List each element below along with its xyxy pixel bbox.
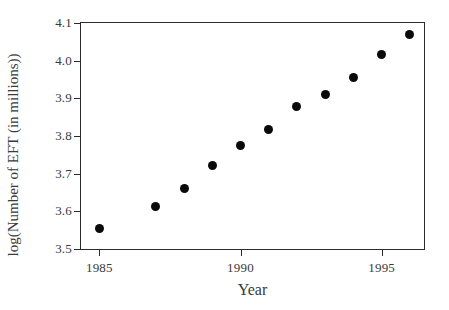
data-point (377, 50, 386, 59)
y-axis-title: log(Number of EFT (in millions)) (0, 0, 26, 310)
y-axis-tick (74, 136, 81, 137)
x-axis-tick-label: 1995 (368, 260, 395, 276)
y-axis-tick-label: 3.7 (55, 166, 72, 182)
data-point (321, 90, 330, 99)
y-axis-tick-label: 3.6 (55, 203, 72, 219)
y-axis-tick (74, 23, 81, 24)
x-axis-tick (99, 249, 100, 256)
x-axis-title: Year (80, 281, 425, 299)
y-axis-tick-label: 3.8 (55, 128, 72, 144)
y-axis-tick (74, 61, 81, 62)
y-axis-tick (74, 249, 81, 250)
y-axis-tick-label: 3.5 (55, 241, 72, 257)
plot-area (81, 23, 424, 249)
data-point (405, 30, 414, 39)
plot-frame: 3.53.63.73.83.94.04.1198519901995 (80, 22, 425, 250)
y-axis-tick (74, 211, 81, 212)
data-point (95, 224, 104, 233)
x-axis-tick-label: 1990 (227, 260, 254, 276)
y-axis-tick (74, 174, 81, 175)
y-axis-tick-label: 4.1 (55, 15, 72, 31)
y-axis-tick (74, 98, 81, 99)
x-axis-tick (382, 249, 383, 256)
scatter-plot-figure: 3.53.63.73.83.94.04.1198519901995 Year l… (0, 0, 449, 310)
data-point (264, 125, 273, 134)
data-point (349, 73, 358, 82)
data-point (151, 202, 160, 211)
x-axis-tick-label: 1985 (86, 260, 113, 276)
y-axis-tick-label: 3.9 (55, 90, 72, 106)
x-axis-tick (241, 249, 242, 256)
y-axis-tick-label: 4.0 (55, 53, 72, 69)
data-point (180, 184, 189, 193)
data-point (292, 102, 301, 111)
data-point (208, 161, 217, 170)
data-point (236, 141, 245, 150)
